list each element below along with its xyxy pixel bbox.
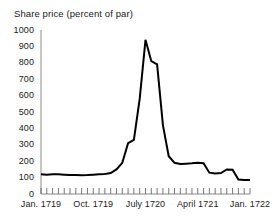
y-tick-label: 0 [2,190,34,199]
y-tick-label: 1000 [2,26,34,35]
y-tick-label: 700 [2,75,34,84]
y-tick-label: 500 [2,108,34,117]
y-tick-label: 800 [2,58,34,67]
x-tick-label: July 1720 [116,199,176,209]
chart-figure: Share price (percent of par) 01002003004… [0,0,272,224]
x-tick-label: April 1721 [168,199,228,209]
plot-area: 01002003004005006007008009001000 Jan. 17… [0,0,272,224]
price-series-line [41,40,250,180]
y-tick-label: 100 [2,173,34,182]
y-tick-label: 300 [2,140,34,149]
y-tick-label: 400 [2,124,34,133]
x-tick-label: Jan. 1722 [220,199,272,209]
x-axis-tick-marks [41,188,250,194]
y-tick-label: 900 [2,42,34,51]
x-tick-label: Jan. 1719 [11,199,71,209]
x-tick-label: Oct. 1719 [63,199,123,209]
y-tick-label: 600 [2,91,34,100]
chart-canvas [0,0,272,224]
y-tick-label: 200 [2,157,34,166]
